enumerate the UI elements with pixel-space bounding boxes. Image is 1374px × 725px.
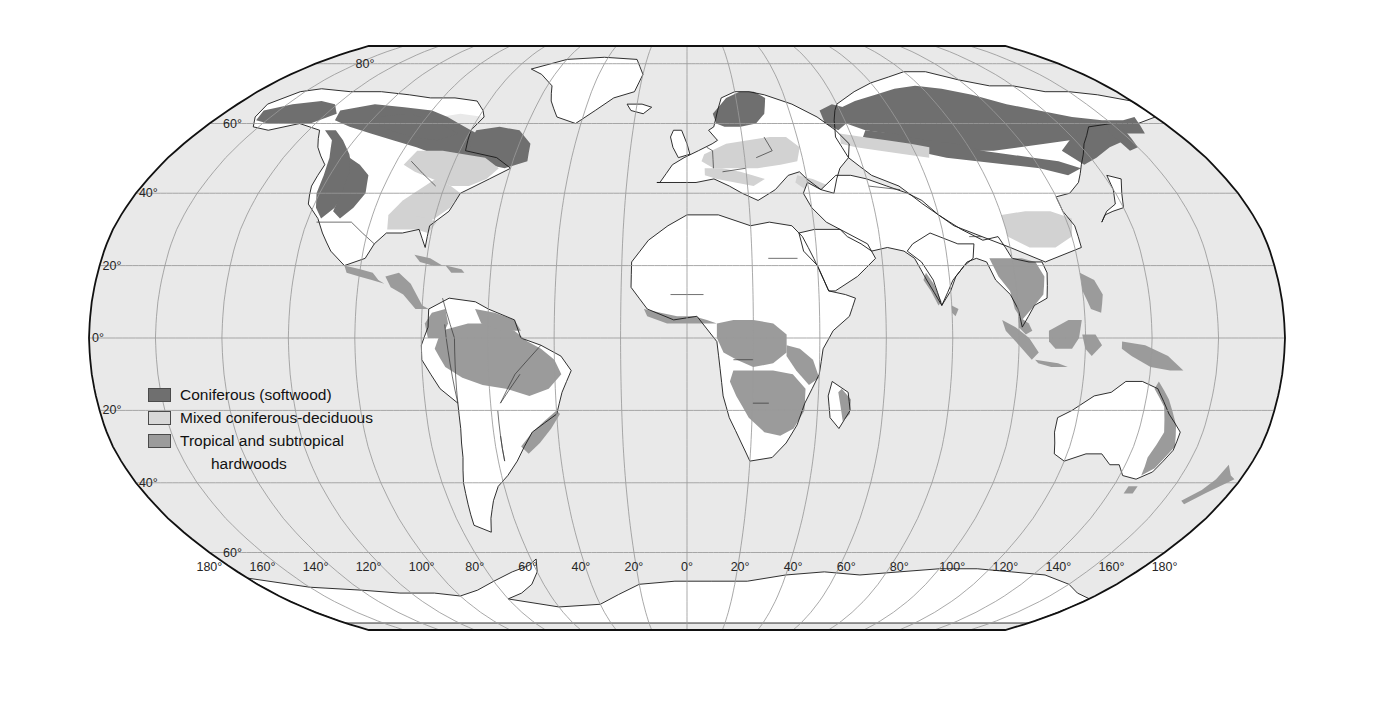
world-map-figure: 80°60°40°20°0°20°40°60°180°160°140°120°1… — [0, 0, 1374, 725]
legend-swatch-coniferous — [148, 388, 171, 402]
longitude-label: 160° — [1099, 560, 1125, 574]
legend-label-tropical: Tropical and subtropical — [180, 431, 344, 451]
longitude-label: 60° — [837, 560, 856, 574]
longitude-label: 0° — [681, 560, 693, 574]
longitude-label: 100° — [939, 560, 965, 574]
longitude-label: 120° — [992, 560, 1018, 574]
latitude-label: 60° — [223, 546, 242, 560]
legend-item-tropical: Tropical and subtropical — [148, 431, 373, 452]
longitude-label: 80° — [890, 560, 909, 574]
longitude-label: 180° — [1152, 560, 1178, 574]
legend-swatch-tropical — [148, 434, 171, 448]
longitude-label: 100° — [409, 560, 435, 574]
legend-label-coniferous: Coniferous (softwood) — [180, 385, 332, 405]
legend-swatch-mixed — [148, 411, 171, 425]
longitude-label: 160° — [250, 560, 276, 574]
longitude-label: 140° — [303, 560, 329, 574]
longitude-label: 180° — [196, 560, 222, 574]
latitude-label: 80° — [356, 57, 375, 71]
map-legend: Coniferous (softwood) Mixed coniferous-d… — [148, 385, 373, 474]
longitude-label: 60° — [518, 560, 537, 574]
legend-label-mixed: Mixed coniferous-deciduous — [180, 408, 373, 428]
legend-item-coniferous: Coniferous (softwood) — [148, 385, 373, 406]
longitude-label: 120° — [356, 560, 382, 574]
longitude-label: 20° — [731, 560, 750, 574]
longitude-label: 140° — [1045, 560, 1071, 574]
longitude-label: 20° — [624, 560, 643, 574]
longitude-label: 80° — [465, 560, 484, 574]
latitude-label: 60° — [223, 117, 242, 131]
map-canvas: 80°60°40°20°0°20°40°60°180°160°140°120°1… — [0, 0, 1374, 725]
latitude-label: 20° — [103, 403, 122, 417]
latitude-label: 20° — [103, 259, 122, 273]
latitude-label: 40° — [139, 186, 158, 200]
longitude-label: 40° — [571, 560, 590, 574]
latitude-label: 0° — [92, 331, 104, 345]
legend-label-tropical-continued: hardwoods — [211, 454, 373, 474]
latitude-label: 40° — [139, 476, 158, 490]
legend-item-mixed: Mixed coniferous-deciduous — [148, 408, 373, 429]
longitude-label: 40° — [784, 560, 803, 574]
